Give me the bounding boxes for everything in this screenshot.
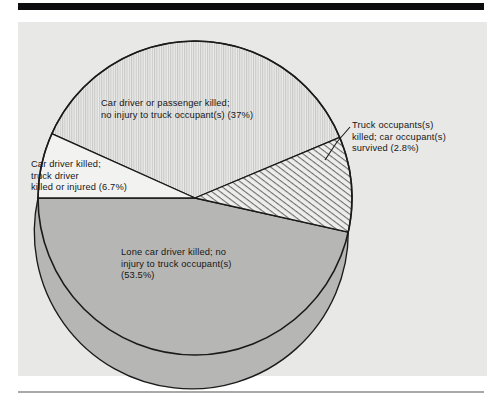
pie-chart [0, 0, 502, 400]
figure-container: Car driver or passenger killed; no injur… [0, 0, 502, 400]
pie-slice-lone-car-driver-killed[interactable] [34, 198, 348, 389]
slice-label-car-passenger-killed: Car driver or passenger killed; no injur… [101, 98, 253, 121]
slice-label-car-driver-truck-driver: Car driver killed; truck driver killed o… [31, 159, 127, 194]
slice-label-truck-occupants-killed: Truck occupants(s) killed; car occupant(… [352, 120, 446, 155]
bottom-divider-rule [18, 391, 484, 393]
slice-label-lone-car-driver-killed: Lone car driver killed; no injury to tru… [121, 247, 232, 282]
